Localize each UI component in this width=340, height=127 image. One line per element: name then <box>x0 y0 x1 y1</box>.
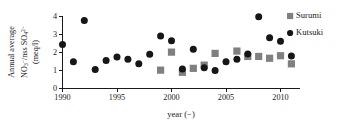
y-axis-label-line: (meq/l) <box>31 40 40 64</box>
data-point-kutsuki <box>135 60 142 67</box>
data-point-surumi <box>157 67 164 74</box>
chart-legend: SurumiKutsuki <box>287 10 324 37</box>
data-point-kutsuki <box>92 66 99 73</box>
data-point-kutsuki <box>233 56 240 63</box>
data-point-kutsuki <box>59 41 66 48</box>
axis-lines <box>63 16 301 89</box>
data-point-kutsuki <box>157 32 164 39</box>
data-point-kutsuki <box>277 38 284 45</box>
data-point-kutsuki <box>223 58 230 65</box>
data-point-surumi <box>266 55 273 62</box>
data-point-kutsuki <box>114 54 121 61</box>
plot-axes <box>63 16 301 89</box>
y-axis-label-text: NO3−/nss SO42− <box>20 26 30 78</box>
x-axis-ticks: 19901995200020052010 <box>54 89 288 103</box>
y-tick-label: 2 <box>53 48 57 57</box>
data-point-surumi <box>277 52 284 59</box>
data-point-kutsuki <box>244 50 251 57</box>
y-tick-label: 4 <box>53 12 57 21</box>
data-point-surumi <box>168 49 175 56</box>
data-point-kutsuki <box>168 37 175 44</box>
data-point-kutsuki <box>81 17 88 24</box>
x-tick-label: 2010 <box>272 93 288 102</box>
legend-marker-surumi <box>287 13 293 19</box>
x-tick-label: 2005 <box>218 93 234 102</box>
legend-marker-kutsuki <box>287 30 293 36</box>
y-axis-label-text: Annual average <box>7 26 16 78</box>
y-axis-ticks: 01234 <box>53 12 63 93</box>
data-point-kutsuki <box>190 46 197 53</box>
y-tick-label: 1 <box>53 66 57 75</box>
data-point-kutsuki <box>212 67 219 74</box>
y-tick-label: 3 <box>53 30 57 39</box>
data-point-kutsuki <box>201 64 208 71</box>
data-point-kutsuki <box>70 58 77 65</box>
x-tick-label: 2000 <box>163 93 179 102</box>
x-axis-title: year (−) <box>167 109 195 119</box>
legend-label-surumi: Surumi <box>296 10 322 20</box>
data-point-kutsuki <box>124 56 131 63</box>
data-point-kutsuki <box>288 53 295 60</box>
scatter-chart-figure: Annual averageNO3−/nss SO42−(meq/l) 0123… <box>0 0 340 127</box>
chart-svg: Annual averageNO3−/nss SO42−(meq/l) 0123… <box>0 0 340 127</box>
y-axis-label-line: Annual average <box>7 26 16 78</box>
data-point-kutsuki <box>255 13 262 20</box>
data-point-kutsuki <box>179 66 186 73</box>
x-tick-label: 1990 <box>54 93 70 102</box>
y-axis-label-text: (meq/l) <box>31 40 40 64</box>
data-point-surumi <box>190 65 197 72</box>
y-axis-label-line: NO3−/nss SO42− <box>20 26 30 78</box>
data-point-kutsuki <box>103 57 110 64</box>
legend-label-kutsuki: Kutsuki <box>296 27 324 37</box>
x-tick-label: 1995 <box>109 93 125 102</box>
data-point-surumi <box>288 60 295 67</box>
data-point-kutsuki <box>266 34 273 41</box>
data-point-surumi <box>255 53 262 60</box>
y-axis-label: Annual averageNO3−/nss SO42−(meq/l) <box>7 26 40 78</box>
data-point-surumi <box>233 47 240 54</box>
data-point-layer <box>59 13 295 76</box>
data-point-kutsuki <box>146 51 153 58</box>
data-point-surumi <box>212 50 219 57</box>
